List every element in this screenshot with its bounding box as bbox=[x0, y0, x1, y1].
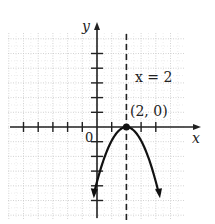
axis-of-symmetry-label: x = 2 bbox=[135, 69, 172, 85]
vertex-label: (2, 0) bbox=[130, 103, 168, 119]
x-axis-label: x bbox=[192, 130, 200, 146]
origin-label: 0 bbox=[85, 130, 93, 145]
y-axis-arrow-icon bbox=[94, 22, 100, 30]
parabola-graph: y x 0 x = 2 (2, 0) bbox=[0, 0, 215, 224]
vertex-point bbox=[123, 124, 130, 131]
y-axis-label: y bbox=[81, 18, 91, 34]
